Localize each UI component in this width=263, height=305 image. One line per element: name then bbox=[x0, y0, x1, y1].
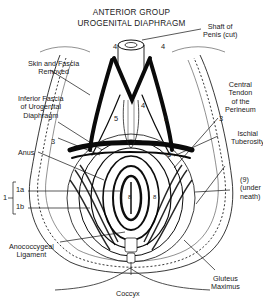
label-line: Penis (cut) bbox=[203, 31, 237, 39]
label-anococcygeal-ligament: Anococcygeal Ligament bbox=[9, 243, 54, 260]
label-line: Perineum bbox=[225, 106, 256, 114]
label-skin-and-fascia: Skin and Fascia Removed bbox=[28, 60, 79, 77]
number-1b: 1b bbox=[16, 203, 24, 211]
number-4-left: 4 bbox=[113, 43, 117, 51]
label-line: neath) bbox=[240, 193, 261, 201]
label-anus: Anus bbox=[18, 149, 34, 157]
label-line: Diaphragm bbox=[18, 112, 64, 120]
number-3-right: 3 bbox=[219, 115, 223, 123]
number-8-right: 8 bbox=[153, 193, 156, 201]
number-6-right: 6 bbox=[167, 151, 171, 159]
number-1a: 1a bbox=[16, 186, 24, 194]
label-line: Ligament bbox=[9, 251, 54, 259]
number-1: 1 bbox=[3, 194, 7, 202]
label-inferior-fascia: Inferior Fascia of Urogenital Diaphragm bbox=[18, 95, 64, 120]
label-shaft-of-penis: Shaft of Penis (cut) bbox=[203, 23, 237, 40]
number-4-right: 4 bbox=[161, 43, 165, 51]
number-5-left: 5 bbox=[114, 115, 118, 123]
label-ischial-tuberosity: Ischial Tuberosity bbox=[231, 130, 263, 147]
number-3-left: 3 bbox=[51, 138, 55, 146]
number-5-right: 5 bbox=[164, 115, 168, 123]
number-8-left: 8 bbox=[128, 193, 131, 201]
label-line: Maximus bbox=[211, 283, 240, 291]
label-under-neath: (9) (under neath) bbox=[240, 176, 261, 201]
label-line: Removed bbox=[28, 68, 79, 76]
number-4-center: 4 bbox=[141, 102, 145, 110]
label-line: Tuberosity bbox=[231, 138, 263, 146]
label-coccyx: Coccyx bbox=[116, 290, 140, 298]
diagram-title-line1: ANTERIOR GROUP bbox=[0, 8, 263, 18]
label-central-tendon: Central Tendon of the Perineum bbox=[225, 81, 256, 115]
label-gluteus-maximus: Gluteus Maximus bbox=[211, 275, 240, 292]
